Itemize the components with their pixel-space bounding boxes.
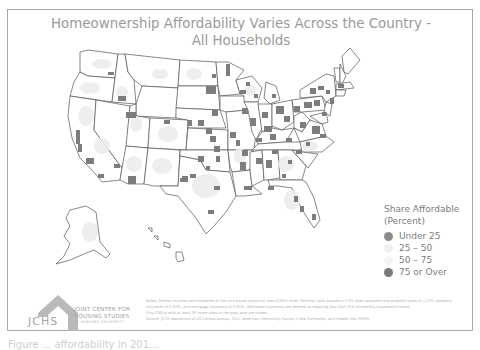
legend-swatch-under-25	[384, 232, 393, 241]
state-hawaii	[148, 228, 184, 262]
figure-frame: Homeownership Affordability Varies Acros…	[7, 9, 473, 331]
legend-swatch-25-50	[384, 244, 393, 253]
source-line: Source: JCHS tabulations of US Census Bu…	[146, 316, 466, 322]
state-michigan	[264, 82, 280, 104]
legend-title-line-1: Share Affordable	[384, 203, 474, 215]
logo-wordmark: JOINT CENTER FOR HOUSING STUDIES OF HARV…	[74, 306, 130, 326]
figure-title: Homeownership Affordability Varies Acros…	[8, 15, 474, 49]
legend-swatch-50-75	[384, 256, 393, 265]
logo-abbr: JCHS	[28, 315, 58, 328]
logo-line-3: OF HARVARD UNIVERSITY	[74, 319, 130, 326]
title-line-1: Homeownership Affordability Varies Acros…	[8, 15, 474, 32]
state-maine	[342, 48, 360, 74]
state-connecticut	[336, 90, 346, 96]
legend: Share Affordable (Percent) Under 25 25 –…	[384, 203, 474, 278]
legend-item-75-or-over: 75 or Over	[384, 266, 474, 278]
legend-swatch-75-or-over	[384, 268, 393, 277]
logo-line-1: JOINT CENTER FOR	[74, 306, 130, 313]
legend-label: Under 25	[399, 231, 441, 241]
legend-label: 75 or Over	[399, 267, 447, 277]
state-mississippi	[250, 150, 264, 186]
legend-title: Share Affordable (Percent)	[384, 203, 474, 227]
legend-item-under-25: Under 25	[384, 230, 474, 242]
legend-label: 25 – 50	[399, 243, 432, 253]
legend-label: 50 – 75	[399, 255, 432, 265]
state-vermont	[334, 68, 340, 82]
notes: Notes: Median incomes are estimated at t…	[146, 298, 466, 322]
jchs-logo: JCHS JOINT CENTER FOR HOUSING STUDIES OF…	[24, 291, 134, 335]
legend-item-50-75: 50 – 75	[384, 254, 474, 266]
state-wyoming	[136, 86, 178, 118]
state-ohio	[272, 100, 294, 130]
legend-item-25-50: 25 – 50	[384, 242, 474, 254]
legend-title-line-2: (Percent)	[384, 215, 474, 227]
figure-caption: Figure ... affordability in 201...	[8, 339, 159, 350]
